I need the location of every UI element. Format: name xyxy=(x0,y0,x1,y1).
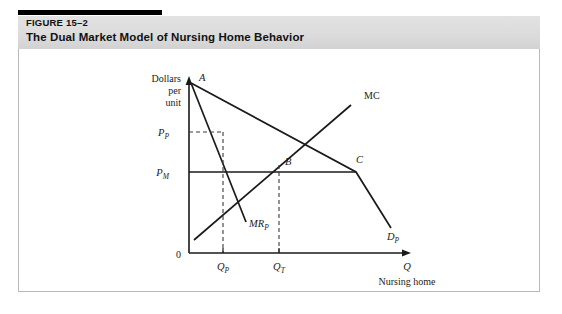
y-axis-label-line-2: per xyxy=(168,85,181,96)
svg-text:PP: PP xyxy=(157,127,169,141)
y-axis-label-line-1: Dollars xyxy=(152,73,182,84)
point-label-a: A xyxy=(198,72,206,83)
figure-number: FIGURE 15–2 xyxy=(26,17,88,28)
y-tick-pp-sub: P xyxy=(163,132,169,141)
x-axis-label-line-2: patients xyxy=(391,288,422,290)
svg-text:QT: QT xyxy=(273,261,286,275)
y-axis-label-line-3: unit xyxy=(165,97,181,108)
curve-label-mc: MC xyxy=(364,90,380,101)
curve-label-dp-sub: P xyxy=(394,236,400,245)
x-tick-label-qp: QP xyxy=(217,261,230,275)
x-axis-symbol: Q xyxy=(403,261,411,272)
curve-label-dp: DP xyxy=(386,231,400,245)
svg-text:QP: QP xyxy=(217,261,230,275)
header-accent-bar xyxy=(18,10,162,15)
x-axis-label: Nursing home patients xyxy=(379,276,437,290)
curve-label-mrp-base: MR xyxy=(248,218,265,229)
axes xyxy=(186,76,411,256)
x-axis-label-line-1: Nursing home xyxy=(379,276,437,287)
point-label-c: C xyxy=(356,154,364,165)
point-label-b: B xyxy=(285,156,292,167)
y-axis-label: Dollars per unit xyxy=(152,73,182,108)
origin-label: 0 xyxy=(176,249,181,260)
y-tick-label-pp: PP xyxy=(157,127,169,141)
curve-label-mrp-sub: P xyxy=(263,223,269,232)
svg-text:PM: PM xyxy=(155,167,169,181)
dual-market-model-chart: Dollars per unit PP PM 0 QP xyxy=(19,49,539,290)
page-title: The Dual Market Model of Nursing Home Be… xyxy=(26,31,304,43)
x-tick-qt-sub: T xyxy=(281,266,286,275)
curve-label-mrp: MRP xyxy=(248,218,269,232)
chart-frame: Dollars per unit PP PM 0 QP xyxy=(18,49,540,292)
y-tick-pm-sub: M xyxy=(162,172,170,181)
x-tick-label-qt: QT xyxy=(273,261,286,275)
y-tick-label-pm: PM xyxy=(155,167,169,181)
figure-container: FIGURE 15–2 The Dual Market Model of Nur… xyxy=(0,0,562,314)
x-tick-qp-sub: P xyxy=(224,266,230,275)
marginal-revenue-curve xyxy=(191,83,246,222)
